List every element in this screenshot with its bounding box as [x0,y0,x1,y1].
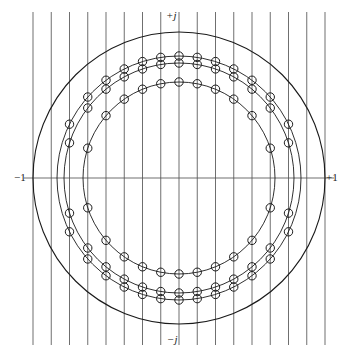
intersection-marker [248,263,256,271]
intersection-marker [120,283,128,291]
axis-label-negative-imaginary-text: −j [167,333,177,345]
intersection-marker [230,253,238,261]
intersection-marker [211,263,219,271]
intersection-marker [120,253,128,261]
intersection-marker [157,268,165,276]
intersection-marker [138,283,146,291]
intersection-marker [175,78,183,86]
intersection-marker [284,120,292,128]
intersection-marker [230,95,238,103]
intersection-marker [157,60,165,68]
intersection-marker [84,144,92,152]
intersection-marker [84,93,92,101]
intersection-marker [65,120,73,128]
intersection-marker [211,283,219,291]
intersection-marker [230,65,238,73]
intersection-marker [84,104,92,112]
intersection-marker [138,85,146,93]
intersection-marker [102,272,110,280]
intersection-marker [65,139,73,147]
intersection-marker [193,80,201,88]
intersection-marker [211,85,219,93]
intersection-marker [266,255,274,263]
intersection-marker [248,85,256,93]
intersection-marker [84,255,92,263]
intersection-marker [230,283,238,291]
axis-label-negative-imaginary: −j [167,334,177,345]
intersection-marker [230,73,238,81]
intersection-marker [193,60,201,68]
intersection-marker [193,268,201,276]
intersection-marker [284,139,292,147]
intersection-marker [138,263,146,271]
intersection-marker [65,228,73,236]
intersection-marker [284,228,292,236]
intersection-marker [284,209,292,217]
intersection-marker [175,270,183,278]
intersection-marker [84,204,92,212]
intersection-marker [211,65,219,73]
intersection-marker [102,76,110,84]
intersection-marker [266,104,274,112]
intersection-marker [266,144,274,152]
intersection-marker [248,272,256,280]
intersection-marker [120,275,128,283]
axis-label-negative-one: −1 [14,172,26,183]
intersection-marker [193,287,201,295]
zplane-plot-svg [0,0,358,357]
intersection-marker [65,209,73,217]
intersection-marker [175,59,183,67]
axis-label-positive-one: +1 [326,172,338,183]
intersection-marker [248,111,256,119]
intersection-marker [120,65,128,73]
intersection-marker [230,275,238,283]
intersection-marker [102,85,110,93]
intersection-marker [157,80,165,88]
intersection-marker [266,204,274,212]
intersection-marker [138,65,146,73]
intersection-marker [120,73,128,81]
intersection-marker [266,93,274,101]
intersection-marker [102,111,110,119]
intersection-marker [102,263,110,271]
zplane-figure: +j −j −1 +1 [0,0,358,357]
intersection-marker [248,236,256,244]
intersection-marker [266,244,274,252]
intersection-marker [175,289,183,297]
axis-label-positive-imaginary-text: +j [166,9,176,21]
intersection-marker [248,76,256,84]
intersection-marker [84,244,92,252]
intersection-marker [120,95,128,103]
axis-label-positive-imaginary: +j [166,10,176,21]
intersection-marker [157,287,165,295]
intersection-marker [102,236,110,244]
